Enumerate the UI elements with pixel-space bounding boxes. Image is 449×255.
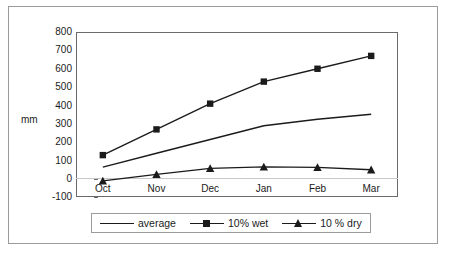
legend-item[interactable]: 10% wet — [190, 217, 268, 229]
chart-legend: average10% wet10 % dry — [91, 213, 371, 233]
legend-line-swatch — [100, 223, 134, 224]
legend-key-none-icon — [100, 218, 134, 228]
series-line-average — [103, 114, 371, 167]
chart-plot-container: mm 8007006005004003002001000-100 OctNovD… — [9, 7, 437, 243]
legend-key-square-icon — [190, 218, 224, 228]
y-tick-label: 200 — [36, 137, 72, 147]
series-line-10-dry — [103, 167, 371, 181]
x-tick-label: Dec — [201, 183, 219, 194]
chart-frame: mm 8007006005004003002001000-100 OctNovD… — [8, 6, 438, 244]
y-tick-label: 500 — [36, 82, 72, 92]
x-tick-label: Nov — [148, 183, 166, 194]
y-tick-label: 700 — [36, 45, 72, 55]
y-tick-mark — [94, 197, 98, 198]
y-tick-label: 0 — [36, 174, 72, 184]
y-tick-label: 100 — [36, 156, 72, 166]
square-marker-icon — [203, 220, 210, 227]
triangle-marker-icon — [294, 219, 302, 227]
series-marker-square — [314, 66, 320, 72]
x-tick-label: Feb — [309, 183, 326, 194]
series-line-10-wet — [103, 56, 371, 155]
legend-item[interactable]: 10 % dry — [282, 217, 361, 229]
x-axis-tick-labels: OctNovDecJanFebMar — [76, 183, 398, 197]
legend-label: 10% wet — [228, 217, 268, 229]
y-tick-label: -100 — [36, 192, 72, 202]
legend-label: 10 % dry — [320, 217, 361, 229]
data-series-layer — [76, 32, 398, 197]
series-marker-square — [207, 100, 213, 106]
x-tick-label: Oct — [95, 183, 111, 194]
y-tick-label: 300 — [36, 119, 72, 129]
series-marker-square — [100, 152, 106, 158]
y-axis-tick-labels: 8007006005004003002001000-100 — [31, 7, 72, 207]
legend-key-triangle-icon — [282, 218, 316, 228]
legend-item[interactable]: average — [100, 217, 176, 229]
legend-label: average — [138, 217, 176, 229]
x-tick-label: Mar — [363, 183, 380, 194]
y-tick-label: 800 — [36, 27, 72, 37]
x-tick-label: Jan — [256, 183, 272, 194]
series-marker-square — [261, 78, 267, 84]
series-marker-square — [153, 126, 159, 132]
y-tick-label: 600 — [36, 64, 72, 74]
series-marker-square — [368, 53, 374, 59]
y-tick-label: 400 — [36, 101, 72, 111]
